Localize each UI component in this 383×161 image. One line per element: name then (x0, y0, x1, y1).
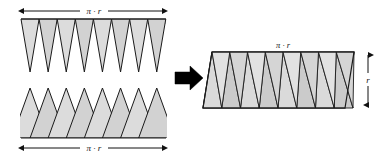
top-wedge-6 (112, 19, 130, 72)
top-wedge-5 (93, 19, 111, 72)
parallelogram-height-dimension: r (361, 55, 375, 105)
bottom-dimension-label: π · r (87, 143, 102, 153)
parallelogram-height-label: r (366, 75, 370, 85)
top-wedge-strip (21, 19, 166, 72)
bottom-strip-left-mask (0, 80, 20, 140)
parallelogram-width-label-group: π · r (276, 40, 291, 50)
top-dimension-label: π · r (87, 6, 102, 16)
top-wedge-2 (39, 19, 57, 72)
bottom-wedge-strip (0, 80, 187, 144)
top-dimension-line: π · r (24, 4, 163, 17)
figure-canvas: π · r (0, 0, 383, 161)
parallelogram-width-label: π · r (276, 40, 291, 50)
top-wedge-3 (57, 19, 75, 72)
top-wedge-8 (148, 19, 166, 72)
top-wedge-7 (130, 19, 148, 72)
assembled-parallelogram (203, 52, 354, 108)
top-wedge-4 (75, 19, 93, 72)
bottom-strip-right-mask (167, 80, 187, 140)
geometry-figure: π · r (0, 0, 383, 161)
top-wedge-1 (21, 19, 39, 72)
